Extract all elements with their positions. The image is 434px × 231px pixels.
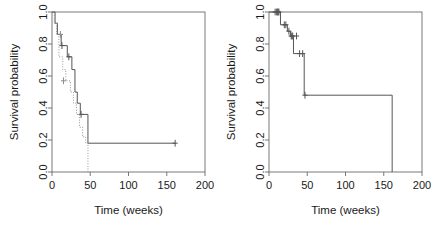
y-tick-label: 0.0 [254,164,266,179]
censor-mark [302,92,307,99]
y-tick-label: 0.8 [37,36,49,51]
x-tick-label: 50 [301,179,313,191]
y-axis-label: Survival probability [8,43,20,140]
censor-mark [173,140,178,147]
x-tick-label: 100 [336,179,354,191]
right-panel: 0501001502000.00.20.40.60.81.0Time (week… [217,0,434,231]
survival-curve-group-2-dotted [52,12,88,172]
x-tick-label: 100 [119,179,137,191]
x-tick-label: 200 [196,179,214,191]
censor-mark [78,111,83,118]
left-panel: 0501001502000.00.20.40.60.81.0Time (week… [0,0,217,231]
censor-mark [59,42,64,49]
y-tick-label: 0.4 [37,100,49,115]
x-tick-label: 0 [266,179,272,191]
x-axis-label: Time (weeks) [94,204,163,216]
y-tick-label: 0.2 [254,132,266,147]
y-tick-label: 0.4 [254,100,266,115]
censor-mark [61,77,66,84]
x-tick-label: 150 [158,179,176,191]
x-tick-label: 50 [84,179,96,191]
y-tick-label: 1.0 [37,4,49,19]
y-axis-label: Survival probability [225,43,237,140]
x-tick-label: 0 [49,179,55,191]
survival-curve-group-1-solid [52,12,175,143]
x-axis-label: Time (weeks) [311,204,380,216]
y-tick-label: 0.6 [37,68,49,83]
y-tick-label: 0.2 [37,132,49,147]
censor-mark [294,33,299,40]
y-tick-label: 0.8 [254,36,266,51]
left-panel-plot: 0501001502000.00.20.40.60.81.0Time (week… [0,0,217,231]
survival-curves-figure: 0501001502000.00.20.40.60.81.0Time (week… [0,0,434,231]
x-tick-label: 150 [375,179,393,191]
y-tick-label: 1.0 [254,4,266,19]
right-panel-plot: 0501001502000.00.20.40.60.81.0Time (week… [217,0,434,231]
survival-curve-overall-survival [269,12,392,172]
y-tick-label: 0.6 [254,68,266,83]
y-tick-label: 0.0 [37,164,49,179]
x-tick-label: 200 [413,179,431,191]
